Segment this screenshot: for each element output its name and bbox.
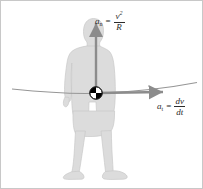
fraction-v-squared-over-r: v2 R bbox=[114, 10, 125, 32]
label-normal-acceleration: an = v2 R bbox=[95, 10, 125, 32]
equals-sign-normal: = bbox=[105, 17, 112, 26]
figure-container: an = v2 R at = dv dt bbox=[0, 0, 203, 189]
fraction-numerator-normal: v2 bbox=[115, 10, 124, 21]
label-tangential-acceleration: at = dv dt bbox=[157, 96, 185, 117]
symbol-a-n: an bbox=[95, 17, 103, 26]
fraction-dv-over-dt: dv dt bbox=[174, 97, 185, 117]
equals-sign-tangential: = bbox=[165, 102, 172, 111]
symbol-a-t: at bbox=[157, 102, 163, 111]
fraction-numerator-tangential: dv bbox=[175, 97, 186, 106]
center-of-mass-marker bbox=[90, 87, 102, 99]
tangential-acceleration-arrow bbox=[96, 92, 163, 93]
fraction-denominator-normal: R bbox=[115, 23, 123, 32]
fraction-denominator-tangential: dt bbox=[175, 108, 184, 117]
